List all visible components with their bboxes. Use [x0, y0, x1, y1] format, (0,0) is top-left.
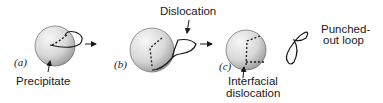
loop-shape [286, 32, 307, 64]
precipitate-label: Precipitate [16, 75, 70, 87]
dislocation-punching-diagram: (a) Precipitate (b) Dislocation (c) Inte… [0, 0, 383, 103]
panel-b: (b) Dislocation [114, 5, 216, 72]
pointer-arrow [187, 20, 189, 33]
interfacial-label-line1: Interfacial [228, 75, 278, 87]
panel-tag: (a) [14, 56, 27, 69]
panel-tag: (c) [219, 60, 232, 73]
dislocation-label: Dislocation [160, 5, 216, 17]
panel-a: (a) Precipitate [14, 26, 96, 87]
punched-out-loop: Punched- out loop [286, 23, 370, 64]
panel-c: (c) Interfacial dislocation [219, 30, 280, 99]
loop-label-line2: out loop [323, 34, 364, 46]
interfacial-label-line2: dislocation [226, 87, 280, 99]
panel-tag: (b) [114, 58, 127, 71]
